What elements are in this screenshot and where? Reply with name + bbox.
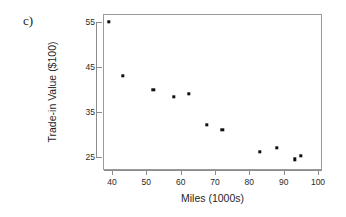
x-axis-tick-label: 80 — [245, 177, 254, 187]
x-axis-tick-label: 100 — [311, 177, 325, 187]
x-axis-tick-label: 40 — [107, 177, 116, 187]
x-axis-tick — [146, 171, 147, 175]
y-axis-tick-label: 25 — [86, 152, 95, 162]
y-axis-title: Trade-in Value ($100) — [46, 42, 58, 143]
x-axis-tick — [318, 171, 319, 175]
data-point — [121, 74, 124, 77]
x-axis-tick — [215, 171, 216, 175]
data-point — [221, 128, 224, 131]
data-point — [293, 158, 296, 161]
y-axis-line — [96, 22, 97, 158]
data-point — [172, 95, 175, 98]
x-axis-tick-label: 90 — [279, 177, 288, 187]
y-axis-tick — [97, 67, 102, 68]
plot-data-area — [103, 14, 322, 170]
x-axis-title: Miles (1000s) — [103, 192, 322, 204]
y-axis-tick-label: 45 — [86, 62, 95, 72]
x-axis-tick — [249, 171, 250, 175]
data-point — [275, 146, 278, 149]
x-axis-tick — [112, 171, 113, 175]
x-axis-tick — [181, 171, 182, 175]
x-axis-tick — [284, 171, 285, 175]
y-axis-tick-label: 55 — [86, 17, 95, 27]
scatter-plot-figure: c) 405060708090100 25354555 Miles (1000s… — [0, 0, 346, 217]
x-axis-tick-label: 50 — [142, 177, 151, 187]
x-axis-tick-label: 70 — [210, 177, 219, 187]
x-axis-tick-label: 60 — [176, 177, 185, 187]
data-point — [187, 92, 190, 95]
x-axis-line — [104, 170, 322, 171]
y-axis-tick — [97, 112, 102, 113]
data-point — [258, 150, 261, 153]
y-axis-tick — [97, 22, 102, 23]
data-point — [107, 20, 110, 23]
data-point — [299, 154, 302, 157]
panel-letter: c) — [23, 14, 33, 28]
data-point — [205, 123, 208, 126]
y-axis-tick — [97, 157, 102, 158]
data-point — [151, 88, 154, 91]
y-axis-tick-label: 35 — [86, 107, 95, 117]
